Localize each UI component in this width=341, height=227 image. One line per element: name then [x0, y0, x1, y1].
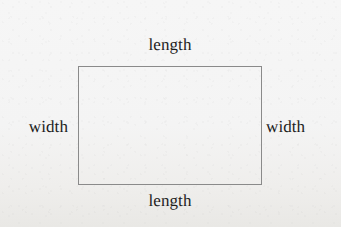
rectangle-shape: [78, 66, 262, 185]
label-length-bottom: length: [78, 192, 262, 209]
rectangle-diagram: length width width length: [0, 0, 341, 227]
label-width-right: width: [266, 118, 305, 135]
label-length-top: length: [78, 36, 262, 53]
label-width-left: width: [0, 118, 74, 135]
